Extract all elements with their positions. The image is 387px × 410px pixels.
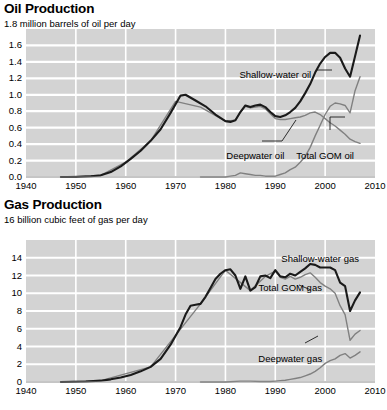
gas-production-chart: Gas Production 16 billion cubic feet of … [0, 196, 387, 410]
x-axis-tick-label: 2000 [305, 181, 345, 191]
y-axis-tick-label: 1.0 [0, 90, 22, 100]
series-annotation: Total GOM oil [296, 151, 354, 161]
y-axis-tick-label: 10 [0, 288, 22, 298]
x-axis-tick-label: 1970 [156, 386, 196, 396]
y-axis-tick-label: 2 [0, 359, 22, 369]
x-axis-tick-label: 1990 [255, 386, 295, 396]
x-axis-tick-label: 1960 [106, 386, 146, 396]
series-annotation: Shallow-water oil [239, 70, 311, 80]
y-axis-tick-label: 1.6 [0, 40, 22, 50]
y-axis-tick-label: 6 [0, 324, 22, 334]
y-axis-tick-label: 12 [0, 271, 22, 281]
series-annotation: Deepwater gas [258, 354, 322, 364]
y-axis-tick-label: 0.2 [0, 156, 22, 166]
x-axis-tick-label: 2000 [305, 386, 345, 396]
chart-canvas [0, 196, 387, 410]
x-axis-tick-label: 1950 [56, 386, 96, 396]
y-axis-tick-label: 4 [0, 342, 22, 352]
x-axis-tick-label: 1990 [255, 181, 295, 191]
x-axis-tick-label: 2010 [355, 386, 387, 396]
y-axis-tick-label: 14 [0, 253, 22, 263]
series-annotation: Deepwater oil [226, 151, 284, 161]
y-axis-tick-label: 1.4 [0, 57, 22, 67]
x-axis-tick-label: 1980 [205, 181, 245, 191]
x-axis-tick-label: 1980 [205, 386, 245, 396]
series-annotation: Shallow-water gas [281, 254, 359, 264]
oil-plot-area: 0.00.20.40.60.81.01.21.41.61940195019601… [0, 0, 387, 196]
x-axis-tick-label: 2010 [355, 181, 387, 191]
x-axis-tick-label: 1960 [106, 181, 146, 191]
y-axis-tick-label: 8 [0, 306, 22, 316]
y-axis-tick-label: 0.6 [0, 123, 22, 133]
x-axis-tick-label: 1970 [156, 181, 196, 191]
y-axis-tick-label: 0.8 [0, 106, 22, 116]
x-axis-tick-label: 1940 [6, 386, 46, 396]
x-axis-tick-label: 1950 [56, 181, 96, 191]
y-axis-tick-label: 0.4 [0, 139, 22, 149]
oil-production-chart: Oil Production 1.8 million barrels of oi… [0, 0, 387, 196]
y-axis-tick-label: 1.2 [0, 73, 22, 83]
series-annotation: Total GOM gas [259, 283, 322, 293]
chart-canvas [0, 0, 387, 196]
gas-plot-area: 0246810121419401950196019701980199020002… [0, 196, 387, 410]
x-axis-tick-label: 1940 [6, 181, 46, 191]
